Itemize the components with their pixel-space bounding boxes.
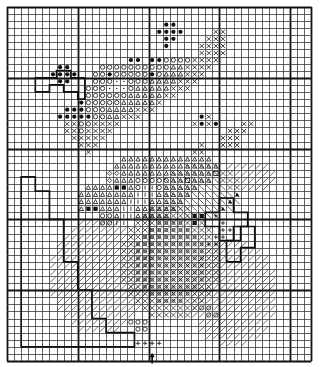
pattern-grid-canvas[interactable] xyxy=(0,0,320,367)
cross-stitch-pattern xyxy=(0,0,320,367)
